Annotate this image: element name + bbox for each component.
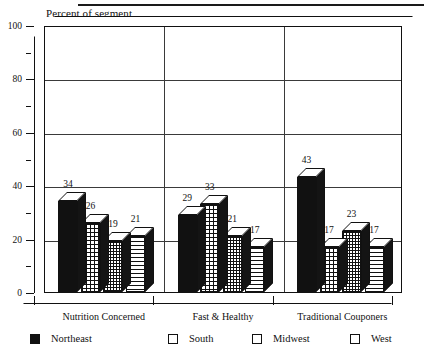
plot-area: 342619212933211743172317 xyxy=(44,26,402,293)
plot-3d-top-slab xyxy=(44,16,402,26)
bar-value-label: 19 xyxy=(108,219,118,229)
bar-side-face xyxy=(316,168,325,292)
bar-side-face xyxy=(145,227,154,292)
legend-swatch-northeast-icon xyxy=(30,334,40,344)
x-axis-tick-3 xyxy=(392,296,393,305)
bar-side-face xyxy=(242,227,251,292)
x-axis-category-label-2: Fast & Healthy xyxy=(192,311,253,322)
bar-value-label: 43 xyxy=(302,155,312,165)
bar-value-label: 17 xyxy=(369,225,379,235)
y-tick-major-40 xyxy=(26,186,34,187)
legend-label: Midwest xyxy=(273,333,310,344)
chart-page: Percent of segment 020406080100 34261921… xyxy=(0,0,424,357)
y-tick-label-20: 20 xyxy=(13,235,23,245)
bar-series-layer: 342619212933211743172317 xyxy=(45,27,401,292)
y-tick-minor-10 xyxy=(26,266,31,267)
legend-item-midwest[interactable]: Midwest xyxy=(252,333,310,344)
y-tick-label-80: 80 xyxy=(13,74,23,84)
y-tick-minor-70 xyxy=(26,106,31,107)
chart-legend: NortheastSouthMidwestWest xyxy=(0,333,424,355)
plot-3d-floor xyxy=(34,293,402,303)
legend-item-northeast[interactable]: Northeast xyxy=(30,333,92,344)
y-tick-minor-50 xyxy=(26,160,31,161)
page-rule-divider xyxy=(78,4,424,6)
bar-value-label: 33 xyxy=(205,182,215,192)
y-tick-major-20 xyxy=(26,240,34,241)
legend-label: Northeast xyxy=(51,333,92,344)
bar-side-face xyxy=(264,238,273,292)
bar-value-label: 17 xyxy=(324,225,334,235)
y-tick-major-80 xyxy=(26,79,34,80)
legend-label: West xyxy=(371,333,392,344)
bar-side-face xyxy=(77,192,86,292)
x-axis-category-label-3: Traditional Couponers xyxy=(297,311,387,322)
bar-front-face xyxy=(297,177,316,292)
bar-side-face xyxy=(219,195,228,292)
y-tick-major-100 xyxy=(26,26,34,27)
bar-value-label: 34 xyxy=(63,179,73,189)
bar-side-face xyxy=(122,232,131,292)
bar-value-label: 29 xyxy=(183,193,193,203)
bar-value-label: 26 xyxy=(86,201,96,211)
legend-label: South xyxy=(189,333,214,344)
y-tick-major-0 xyxy=(26,293,34,294)
y-tick-major-60 xyxy=(26,133,34,134)
bar-northeast-group-3[interactable]: 43 xyxy=(297,177,316,292)
legend-swatch-west-icon xyxy=(350,334,360,344)
y-tick-label-60: 60 xyxy=(13,128,23,138)
legend-item-south[interactable]: South xyxy=(168,333,214,344)
bar-side-face xyxy=(361,222,370,292)
legend-swatch-midwest-icon xyxy=(252,334,262,344)
bar-northeast-group-1[interactable]: 34 xyxy=(58,201,77,292)
x-axis-tick-2 xyxy=(273,296,274,305)
y-tick-minor-30 xyxy=(26,213,31,214)
bar-side-face xyxy=(197,206,206,292)
x-axis-tick-0 xyxy=(34,296,35,305)
bar-northeast-group-2[interactable]: 29 xyxy=(178,215,197,292)
bar-value-label: 23 xyxy=(347,209,357,219)
bar-value-label: 21 xyxy=(228,214,238,224)
y-tick-label-0: 0 xyxy=(17,288,22,298)
bar-front-face xyxy=(58,201,77,292)
bar-front-face xyxy=(178,215,197,292)
x-axis-tick-1 xyxy=(153,296,154,305)
bar-value-label: 21 xyxy=(131,214,141,224)
y-axis: 020406080100 xyxy=(0,16,44,293)
y-tick-label-40: 40 xyxy=(13,181,23,191)
y-tick-label-100: 100 xyxy=(8,21,22,31)
legend-item-west[interactable]: West xyxy=(350,333,392,344)
bar-side-face xyxy=(100,214,109,292)
legend-swatch-south-icon xyxy=(168,334,178,344)
x-axis-category-label-1: Nutrition Concerned xyxy=(62,311,144,322)
y-tick-minor-90 xyxy=(26,53,31,54)
